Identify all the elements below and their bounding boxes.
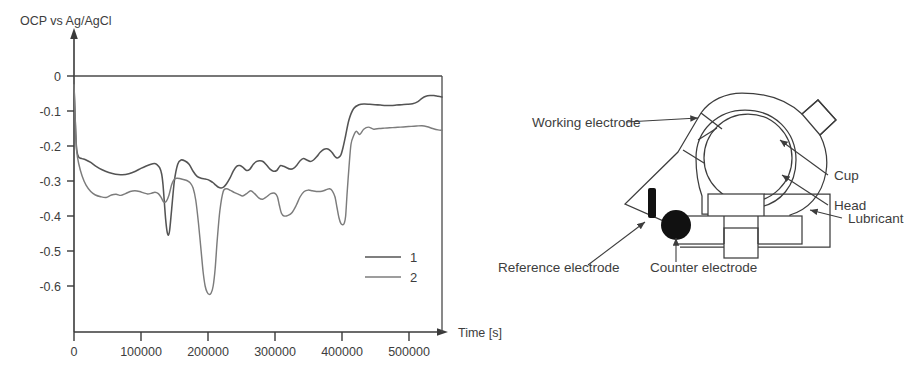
y-tick-label: -0.1 <box>39 105 61 119</box>
y-axis-label: OCP vs Ag/AgCl <box>20 14 111 28</box>
cup-leader <box>780 140 828 175</box>
y-tick-label: -0.2 <box>39 140 61 154</box>
tribology-cell-diagram-panel: Working electrode Cup Head Lubricant Ref… <box>470 0 904 374</box>
legend-label-1: 1 <box>410 250 417 265</box>
figure-root: OCP vs Ag/AgCl <box>0 0 904 374</box>
series-line-2 <box>74 85 442 295</box>
y-tick-label: 0 <box>54 70 61 84</box>
lubricant-label: Lubricant <box>848 211 904 226</box>
ring-notch-upper-left <box>698 128 717 140</box>
ring-notch-left <box>701 113 722 129</box>
cup-bore <box>704 114 792 202</box>
tribology-cell-diagram-svg: Working electrode Cup Head Lubricant Ref… <box>470 0 904 374</box>
y-tick-label: -0.5 <box>39 245 61 259</box>
counter-electrode-marker <box>661 210 691 240</box>
counter-electrode-label: Counter electrode <box>650 260 757 275</box>
x-tick-label: 0 <box>71 345 78 359</box>
x-tick-labels: 0 100000 200000 300000 400000 500000 <box>71 345 430 359</box>
head-leader <box>782 175 828 205</box>
legend-label-2: 2 <box>410 270 417 285</box>
x-ticks <box>74 332 409 341</box>
chart-legend: 1 2 <box>365 250 417 285</box>
y-tick-label: -0.3 <box>39 175 61 189</box>
series-group <box>74 85 442 295</box>
x-tick-label: 100000 <box>120 345 162 359</box>
y-tick-label: -0.6 <box>39 280 61 294</box>
x-tick-label: 400000 <box>321 345 363 359</box>
series-line-1 <box>74 85 442 236</box>
reference-electrode-leader <box>588 222 645 265</box>
x-tick-label: 300000 <box>254 345 296 359</box>
shell-tab <box>802 100 836 135</box>
center-block <box>724 228 758 258</box>
cup-label: Cup <box>834 168 859 183</box>
y-tick-labels: 0 -0.1 -0.2 -0.3 -0.4 -0.5 -0.6 <box>39 70 61 294</box>
plot-frame <box>74 76 442 332</box>
working-electrode-label: Working electrode <box>532 115 641 130</box>
ring-notch-lower-left <box>683 150 704 163</box>
y-tick-label: -0.4 <box>39 210 61 224</box>
x-axis <box>74 328 448 336</box>
x-tick-label: 200000 <box>187 345 229 359</box>
reference-electrode-marker <box>648 188 656 218</box>
x-tick-label: 500000 <box>388 345 430 359</box>
reference-electrode-label: Reference electrode <box>498 260 620 275</box>
y-ticks <box>67 76 74 286</box>
